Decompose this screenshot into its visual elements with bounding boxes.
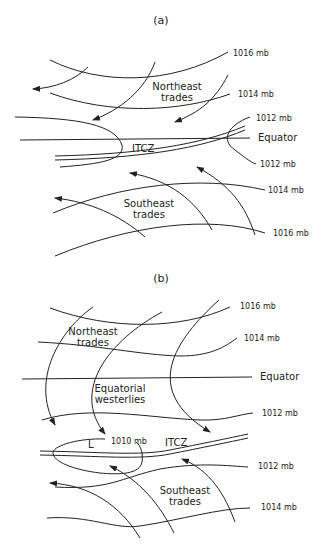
- equator-line: [20, 138, 250, 140]
- isobar-1016-north: [50, 52, 228, 78]
- se-trades-label: Southeast: [160, 485, 211, 496]
- panel-b: (b) 1016 mb 1014 mb 1012 mb 1010 mb 1012…: [22, 272, 300, 538]
- isobar-label: 1012 mb: [260, 160, 296, 169]
- ne-trade-arrow-3: [170, 300, 219, 432]
- isobar-1016-south: [55, 224, 265, 256]
- se-trades-label: Southeast: [124, 198, 175, 209]
- se-trade-arrow-1: [50, 483, 140, 538]
- trade-winds-diagram: (a) 1016 mb 1014 mb 1012 mb 1012 mb 1014…: [0, 0, 322, 555]
- ne-trades-label: trades: [161, 92, 193, 103]
- ne-trades-label: Northeast: [152, 81, 201, 92]
- se-trade-arrow-2: [110, 466, 174, 533]
- isobar-1014: [38, 338, 237, 356]
- ne-trades-label: trades: [77, 337, 109, 348]
- isobar-label: 1010 mb: [111, 437, 147, 446]
- isobar-label: 1014 mb: [238, 90, 274, 99]
- ne-trade-arrow-2: [93, 62, 155, 120]
- isobar-label: 1012 mb: [258, 462, 294, 471]
- se-trades-label: trades: [133, 209, 165, 220]
- ne-trades-label: Northeast: [68, 326, 117, 337]
- isobar-1012-south: [55, 465, 248, 488]
- isobar-label: 1014 mb: [261, 503, 297, 512]
- eq-westerlies-label: westerlies: [95, 394, 146, 405]
- panel-a-label: (a): [153, 14, 168, 27]
- isobar-label: 1012 mb: [262, 409, 298, 418]
- isobar-label: 1014 mb: [268, 186, 304, 195]
- isobar-1014-south: [47, 508, 250, 527]
- isobar-1012-north: [42, 413, 253, 420]
- itcz-label: ITCZ: [132, 143, 154, 154]
- isobar-label: 1014 mb: [244, 334, 280, 343]
- isobar-1012-east: [227, 117, 256, 164]
- itcz-label: ITCZ: [165, 437, 187, 448]
- equator-line: [22, 377, 252, 379]
- isobar-label: 1016 mb: [240, 302, 276, 311]
- eq-westerlies-label: Equatorial: [95, 383, 146, 394]
- equator-label: Equator: [258, 132, 298, 143]
- low-pressure-label: L: [88, 439, 94, 450]
- ne-trade-arrow-1: [46, 307, 93, 425]
- se-trades-label: trades: [169, 496, 201, 507]
- isobar-label: 1012 mb: [256, 114, 292, 123]
- ne-trade-arrow-1: [33, 67, 88, 89]
- panel-a: (a) 1016 mb 1014 mb 1012 mb 1012 mb 1014…: [15, 14, 309, 256]
- equator-label: Equator: [260, 371, 300, 382]
- panel-b-label: (b): [153, 272, 169, 285]
- isobar-label: 1016 mb: [273, 229, 309, 238]
- isobar-label: 1016 mb: [233, 49, 269, 58]
